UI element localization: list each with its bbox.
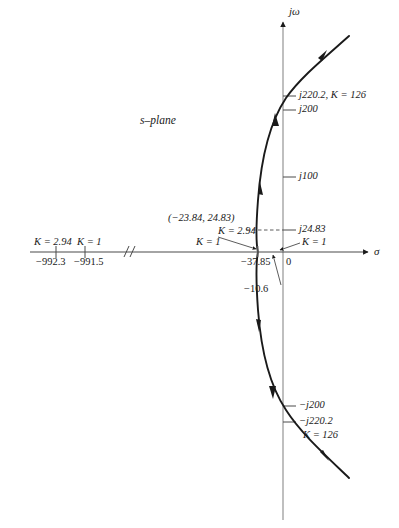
imaginary-axis-label: jω xyxy=(289,5,300,18)
origin-label: 0 xyxy=(286,256,291,268)
real-axis-label: σ xyxy=(374,245,379,258)
tick-label-neg-10-6: −10.6 xyxy=(244,283,268,295)
gain-label-k1-left: K = 1 xyxy=(196,236,221,248)
tick-label-neg-j200: −j200 xyxy=(299,399,325,411)
leader-neg10-6 xyxy=(273,255,281,285)
tick-label-neg-992-3: −992.3 xyxy=(36,256,66,268)
tick-label-neg-991-5: −991.5 xyxy=(74,256,104,268)
tick-label-neg-37-85: −37.85 xyxy=(241,256,271,268)
tick-label-j100: j100 xyxy=(299,170,318,182)
breakaway-point-label: (−23.84, 24.83) xyxy=(168,212,235,224)
tick-label-j220-2: j220.2, K = 126 xyxy=(299,89,366,101)
gain-label-k2-94-far: K = 2.94 xyxy=(34,236,72,248)
gain-label-k1-origin: K = 1 xyxy=(302,236,327,248)
gain-label-k2-94-breakaway: K = 2.94 xyxy=(218,225,256,237)
gain-label-k126-bottom: K = 126 xyxy=(303,429,338,441)
s-plane-label: s–plane xyxy=(140,114,176,127)
tick-label-neg-j220-2: −j220.2 xyxy=(299,415,333,427)
root-locus-figure: s–plane jω σ j220.2, K = 126 j200 j100 j… xyxy=(0,0,399,528)
tick-label-j200: j200 xyxy=(299,103,318,115)
leader-k1-to-neg37-85 xyxy=(218,237,256,249)
gain-label-k1-far: K = 1 xyxy=(77,236,102,248)
tick-label-j24-83: j24.83 xyxy=(299,223,326,235)
